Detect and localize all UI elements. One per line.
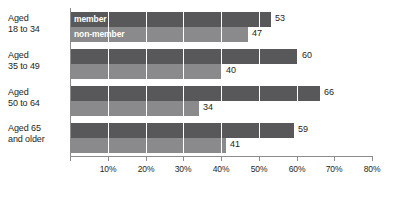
x-tick-label-30: 30% (175, 164, 192, 174)
category-label-aged-35-49: Aged 35 to 49 (8, 50, 66, 71)
x-tick-70 (334, 156, 335, 161)
bar-nonmember-aged-50-64 (71, 101, 199, 116)
x-tick-label-20: 20% (138, 164, 155, 174)
value-label-nonmember-aged-35-49: 40 (226, 65, 236, 75)
x-tick-label-70: 70% (326, 164, 343, 174)
x-tick-60 (297, 156, 298, 161)
x-tick-80 (372, 156, 373, 161)
value-label-nonmember-aged-18-34: 47 (252, 28, 262, 38)
x-tick-label-10: 10% (100, 164, 117, 174)
category-label-line2: 35 to 49 (8, 61, 66, 72)
x-tick-label-80: 80% (364, 164, 381, 174)
gridline-70 (334, 8, 335, 156)
category-label-line2: and older (8, 134, 66, 145)
x-tick-10 (108, 156, 109, 161)
category-label-aged-18-34: Aged 18 to 34 (8, 13, 66, 34)
value-label-member-aged-50-64: 66 (324, 87, 334, 97)
category-label-aged-65-older: Aged 65 and older (8, 123, 66, 144)
category-label-line2: 18 to 34 (8, 24, 66, 35)
x-tick-20 (146, 156, 147, 161)
x-tick-label-40: 40% (213, 164, 230, 174)
plot-area: member non-member 53 47 60 40 66 34 59 4… (70, 8, 372, 156)
category-label-line1: Aged (8, 13, 29, 23)
category-label-line2: 50 to 64 (8, 98, 66, 109)
x-tick-50 (259, 156, 260, 161)
legend-label-member: member (74, 12, 106, 27)
category-label-line1: Aged 65 (8, 123, 41, 133)
x-tick-0 (70, 156, 71, 161)
y-axis-line (70, 8, 71, 156)
x-tick-30 (183, 156, 184, 161)
bar-member-aged-35-49 (71, 49, 298, 64)
gridline-30 (183, 8, 184, 156)
gridline-20 (146, 8, 147, 156)
value-label-member-aged-65-older: 59 (298, 124, 308, 134)
x-tick-40 (221, 156, 222, 161)
bar-chart: Aged 18 to 34 Aged 35 to 49 Aged 50 to 6… (0, 0, 412, 202)
category-label-aged-50-64: Aged 50 to 64 (8, 87, 66, 108)
category-label-line1: Aged (8, 87, 29, 97)
category-label-line1: Aged (8, 50, 29, 60)
value-label-member-aged-35-49: 60 (302, 50, 312, 60)
value-label-nonmember-aged-50-64: 34 (203, 102, 213, 112)
value-label-member-aged-18-34: 53 (275, 13, 285, 23)
x-tick-label-50: 50% (251, 164, 268, 174)
gridline-40 (221, 8, 222, 156)
x-tick-label-60: 60% (289, 164, 306, 174)
value-label-nonmember-aged-65-older: 41 (230, 139, 240, 149)
legend-label-nonmember: non-member (74, 27, 124, 42)
bar-nonmember-aged-65-older (71, 138, 226, 153)
